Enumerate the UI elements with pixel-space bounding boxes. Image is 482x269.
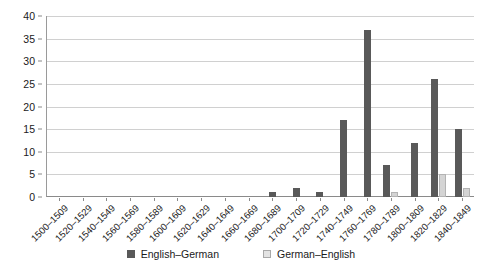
bar (439, 174, 446, 197)
bar (293, 188, 300, 197)
y-tick-label: 20 (23, 101, 35, 112)
x-tick-mark (225, 198, 226, 201)
bar-group (284, 16, 308, 197)
bar-group (403, 16, 427, 197)
y-tick-label: 25 (23, 79, 35, 90)
bar-chart: 0510152025303540 1500–15091520–15291540–… (0, 0, 482, 269)
y-tick-mark (38, 106, 42, 107)
x-tick-mark (249, 198, 250, 201)
bar-group (142, 16, 166, 197)
x-tick-mark (83, 198, 84, 201)
bar-group (379, 16, 403, 197)
bar (455, 129, 462, 197)
legend-label: English–German (141, 248, 219, 260)
y-tick-label: 5 (29, 169, 35, 180)
x-tick-mark (296, 198, 297, 201)
bar-group (355, 16, 379, 197)
bar-group (260, 16, 284, 197)
x-tick-mark (367, 198, 368, 201)
bar-group (332, 16, 356, 197)
bar-group (118, 16, 142, 197)
bar (431, 79, 438, 197)
y-tick-mark (38, 83, 42, 84)
y-axis: 0510152025303540 (0, 16, 42, 197)
bar (269, 192, 276, 197)
bar (364, 30, 371, 197)
y-tick-mark (38, 151, 42, 152)
bar (391, 192, 398, 197)
x-tick-mark (438, 198, 439, 201)
bar-group (308, 16, 332, 197)
bar (383, 165, 390, 197)
chart-legend: English–GermanGerman–English (0, 248, 482, 260)
y-tick-label: 15 (23, 124, 35, 135)
x-axis: 1500–15091520–15291540–15491560–15691580… (47, 198, 474, 250)
x-tick-mark (59, 198, 60, 201)
light-gray-swatch (263, 250, 271, 258)
x-tick-mark (391, 198, 392, 201)
legend-label: German–English (277, 248, 355, 260)
bar (463, 188, 470, 197)
y-tick-label: 40 (23, 11, 35, 22)
dark-gray-swatch (127, 250, 135, 258)
bars-layer (47, 16, 474, 197)
x-tick-mark (201, 198, 202, 201)
y-tick-mark (38, 197, 42, 198)
y-tick-label: 35 (23, 33, 35, 44)
bar-group (47, 16, 71, 197)
y-tick-mark (38, 61, 42, 62)
x-tick-mark (415, 198, 416, 201)
bar-group (450, 16, 474, 197)
bar-group (166, 16, 190, 197)
y-tick-label: 0 (29, 192, 35, 203)
bar (340, 120, 347, 197)
bar-group (427, 16, 451, 197)
y-tick-label: 30 (23, 56, 35, 67)
x-tick-mark (344, 198, 345, 201)
bar (316, 192, 323, 197)
bar-group (189, 16, 213, 197)
x-tick-mark (272, 198, 273, 201)
y-tick-mark (38, 129, 42, 130)
y-tick-mark (38, 38, 42, 39)
y-tick-label: 10 (23, 147, 35, 158)
bar-group (71, 16, 95, 197)
x-tick-mark (130, 198, 131, 201)
x-tick-mark (462, 198, 463, 201)
x-tick-mark (177, 198, 178, 201)
bar-group (94, 16, 118, 197)
x-tick-mark (106, 198, 107, 201)
bar (411, 143, 418, 197)
y-tick-mark (38, 174, 42, 175)
x-tick-mark (154, 198, 155, 201)
y-tick-mark (38, 16, 42, 17)
bar-group (213, 16, 237, 197)
bar-group (237, 16, 261, 197)
legend-item: English–German (127, 248, 219, 260)
x-tick-mark (320, 198, 321, 201)
legend-item: German–English (263, 248, 355, 260)
